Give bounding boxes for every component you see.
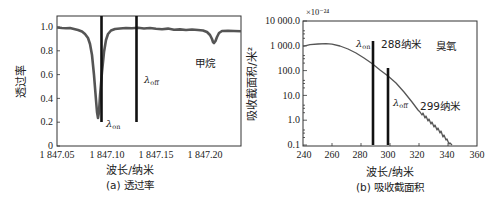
panel-b-species-label: 臭氧	[436, 40, 457, 52]
panel-b-ytick-3: 100.0	[278, 65, 301, 76]
panel-b-on-wavelength: 288纳米	[381, 38, 422, 50]
panel-b-ozone-curve	[303, 44, 452, 145]
panel-b-lambda-off-label: λoff	[392, 97, 409, 110]
panel-b-xtick-6: 360	[470, 149, 485, 160]
panel-b-multiplier: ×10⁻²⁴	[306, 7, 329, 17]
panel-a-transmittance: 0 0.2 0.4 0.6 0.8 1.0 1 847.05 1 847.10 …	[14, 16, 241, 191]
panel-a-ytick-4: 0.8	[41, 45, 54, 56]
panel-b-xtick-2: 280	[353, 149, 368, 160]
panel-b-ytick-2: 10.0	[283, 90, 301, 101]
panel-b-absorption-cross-section: 0.1 1.0 10.0 100.0 1 000.0 10 000.0 ×10⁻…	[245, 7, 485, 193]
panel-b-ylabel: 吸收截面积/米²	[245, 47, 259, 121]
panel-a-ytick-1: 0.2	[41, 116, 54, 127]
panel-b-xlabel: 波长/纳米	[366, 166, 414, 179]
panel-b-off-wavelength: 299纳米	[420, 100, 461, 112]
panel-a-lambda-off-label: λoff	[143, 74, 160, 87]
panel-b-xtick-3: 300	[381, 149, 396, 160]
panel-b-xtick-4: 320	[410, 149, 425, 160]
panel-b-ytick-5: 10 000.0	[265, 15, 300, 26]
panel-a-ytick-5: 1.0	[41, 21, 54, 32]
figure: 0 0.2 0.4 0.6 0.8 1.0 1 847.05 1 847.10 …	[0, 0, 497, 206]
panel-a-xtick-0: 1 847.05	[40, 149, 75, 160]
panel-b-xtick-0: 240	[297, 149, 312, 160]
panel-a-xlabel: 波长/纳米	[106, 164, 154, 177]
panel-a-species-label: 甲烷	[195, 57, 216, 69]
panel-a-xtick-1: 1 847.10	[90, 149, 125, 160]
panel-b-y-ticks	[303, 21, 307, 145]
panel-a-caption: (a) 透过率	[106, 179, 154, 191]
panel-b-xtick-1: 260	[325, 149, 340, 160]
panel-a-ylabel: 透过率	[14, 65, 28, 98]
panel-b-lambda-on-label: λon	[355, 38, 370, 51]
panel-a-xtick-3: 1 847.20	[188, 149, 223, 160]
panel-b-ytick-4: 1 000.0	[270, 40, 300, 51]
panel-a-xtick-2: 1 847.15	[139, 149, 174, 160]
panel-b-caption: (b) 吸收截面积	[356, 181, 425, 193]
panel-a-ytick-3: 0.6	[41, 69, 54, 80]
panel-b-ytick-1: 1.0	[288, 114, 301, 125]
panel-a-transmittance-curve	[57, 28, 241, 119]
panel-b-xtick-5: 340	[440, 149, 455, 160]
panel-a-ytick-2: 0.4	[41, 93, 54, 104]
panel-a-lambda-on-label: λon	[105, 118, 120, 131]
